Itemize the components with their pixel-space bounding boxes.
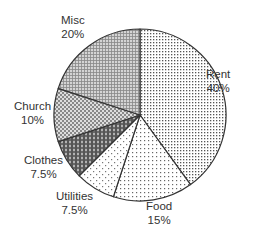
label-misc-name: Misc — [61, 13, 85, 27]
label-rent-value: 40% — [206, 81, 230, 95]
label-church-name: Church — [14, 99, 51, 113]
label-rent: Rent 40% — [206, 67, 230, 95]
label-food-name: Food — [146, 199, 172, 213]
pie-slices — [54, 29, 226, 201]
label-misc: Misc 20% — [61, 13, 85, 41]
label-clothes: Clothes 7.5% — [24, 153, 63, 181]
label-rent-name: Rent — [206, 67, 230, 81]
label-utilities-value: 7.5% — [56, 203, 93, 217]
label-clothes-name: Clothes — [24, 153, 63, 167]
label-food-value: 15% — [146, 213, 172, 227]
label-food: Food 15% — [146, 199, 172, 227]
label-misc-value: 20% — [61, 27, 85, 41]
label-church-value: 10% — [14, 113, 51, 127]
label-utilities: Utilities 7.5% — [56, 189, 93, 217]
label-church: Church 10% — [14, 99, 51, 127]
label-utilities-name: Utilities — [56, 189, 93, 203]
label-clothes-value: 7.5% — [24, 167, 63, 181]
